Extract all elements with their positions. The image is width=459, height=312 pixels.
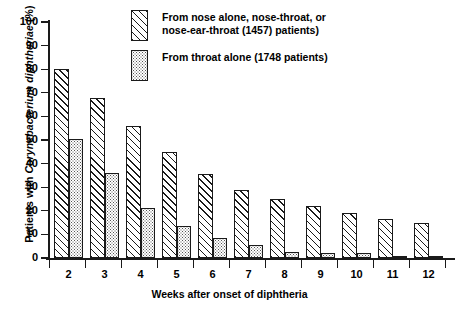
y-tick — [41, 116, 48, 117]
x-tick-label: 6 — [196, 268, 230, 281]
bar-chart-figure: Patients with Corynebacterium diphtheria… — [0, 0, 459, 312]
bar-nose-series — [270, 199, 285, 258]
bar-group — [54, 22, 83, 258]
bar-throat-series — [249, 245, 264, 258]
legend-entry-throat: From throat alone (1748 patients) — [131, 50, 441, 81]
bar-nose-series — [126, 126, 141, 258]
bar-throat-series — [357, 253, 372, 258]
y-tick-label: 20 — [0, 205, 38, 216]
x-tick-label: 7 — [232, 268, 266, 281]
legend-entry-nose: From nose alone, nose-throat, or nose-ea… — [131, 10, 441, 41]
bar-nose-series — [234, 190, 249, 258]
x-tick-label: 4 — [124, 268, 158, 281]
x-axis-line — [46, 258, 455, 260]
y-tick — [41, 69, 48, 70]
bar-throat-series — [177, 226, 192, 258]
y-tick — [41, 257, 48, 258]
y-tick — [41, 234, 48, 235]
x-tick-label: 5 — [160, 268, 194, 281]
bar-nose-series — [90, 98, 105, 258]
y-tick-label: 80 — [0, 63, 38, 74]
x-tick-label: 3 — [88, 268, 122, 281]
x-tick — [265, 259, 266, 268]
bar-nose-series — [162, 152, 177, 258]
bar-throat-series — [213, 238, 228, 258]
x-tick-label: 2 — [52, 268, 86, 281]
y-tick — [41, 163, 48, 164]
y-tick-label: 90 — [0, 40, 38, 51]
x-tick — [49, 259, 50, 268]
y-tick — [41, 92, 48, 93]
y-tick — [41, 187, 48, 188]
x-tick-label: 11 — [376, 268, 410, 281]
y-tick — [41, 21, 48, 22]
y-tick-label: 40 — [0, 158, 38, 169]
y-tick — [41, 210, 48, 211]
x-tick — [409, 259, 410, 268]
bar-throat-series — [393, 256, 408, 258]
x-tick-label: 9 — [304, 268, 338, 281]
y-tick-label: 10 — [0, 228, 38, 239]
x-tick-label: 10 — [340, 268, 374, 281]
x-tick — [445, 259, 446, 268]
bar-throat-series — [321, 253, 336, 258]
x-tick — [373, 259, 374, 268]
x-tick — [337, 259, 338, 268]
diagonal-hatch-swatch — [131, 10, 148, 41]
y-tick — [41, 139, 48, 140]
bar-throat-series — [429, 256, 444, 258]
y-tick-label: 60 — [0, 110, 38, 121]
y-tick-label: 0 — [0, 252, 38, 263]
y-tick — [41, 45, 48, 46]
bar-nose-series — [414, 223, 429, 258]
y-tick-label: 70 — [0, 87, 38, 98]
x-axis-title: Weeks after onset of diphtheria — [0, 288, 459, 300]
x-tick — [193, 259, 194, 268]
x-tick — [121, 259, 122, 268]
x-tick-label: 8 — [268, 268, 302, 281]
y-tick-label: 100 — [0, 16, 38, 27]
x-tick — [157, 259, 158, 268]
y-tick-label: 30 — [0, 181, 38, 192]
legend-entry-throat-label: From throat alone (1748 patients) — [162, 50, 328, 64]
x-tick — [301, 259, 302, 268]
bar-nose-series — [306, 206, 321, 258]
x-tick-label: 12 — [412, 268, 446, 281]
bar-group — [90, 22, 119, 258]
bar-nose-series — [342, 213, 357, 258]
bar-throat-series — [141, 208, 156, 258]
bar-nose-series — [378, 219, 393, 258]
x-tick — [85, 259, 86, 268]
bar-throat-series — [285, 252, 300, 258]
x-tick — [229, 259, 230, 268]
y-tick-label: 50 — [0, 134, 38, 145]
stipple-swatch — [131, 50, 148, 81]
legend-entry-nose-label: From nose alone, nose-throat, or nose-ea… — [162, 10, 326, 37]
bar-nose-series — [198, 174, 213, 258]
bar-throat-series — [69, 139, 84, 258]
legend: From nose alone, nose-throat, or nose-ea… — [131, 10, 441, 90]
bar-nose-series — [54, 69, 69, 258]
bar-throat-series — [105, 173, 120, 258]
